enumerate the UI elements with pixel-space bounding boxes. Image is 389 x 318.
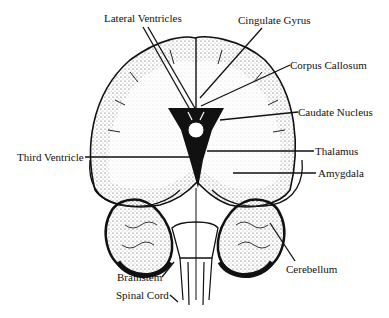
label-brainstem: Brainstem: [117, 271, 162, 283]
label-corpus-callosum: Corpus Callosum: [290, 59, 367, 71]
label-third-ventricle: Third Ventricle: [17, 151, 84, 163]
brainstem-shape: [172, 188, 218, 305]
label-thalamus: Thalamus: [315, 145, 358, 157]
label-cingulate-gyrus: Cingulate Gyrus: [238, 14, 310, 26]
label-caudate-nucleus: Caudate Nucleus: [298, 106, 373, 118]
label-spinal-cord: Spinal Cord: [116, 289, 169, 301]
brain-diagram: Lateral Ventricles Cingulate Gyrus Corpu…: [0, 0, 389, 318]
label-amygdala: Amygdala: [318, 167, 364, 179]
label-lateral-ventricles: Lateral Ventricles: [104, 12, 182, 24]
label-cerebellum: Cerebellum: [286, 263, 337, 275]
leader-spinal-cord: [170, 295, 178, 302]
